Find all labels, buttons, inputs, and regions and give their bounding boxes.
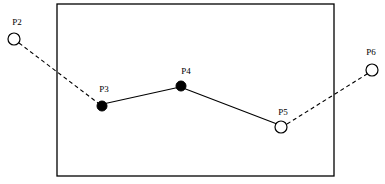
diagram-canvas: P2 P3 P4 P5 P6: [0, 0, 385, 184]
node-p2[interactable]: [8, 33, 20, 45]
edge-p4-p5: [183, 88, 277, 124]
node-label-p6: P6: [366, 47, 376, 57]
node-label-p4: P4: [181, 66, 191, 76]
node-p4[interactable]: [176, 81, 186, 91]
node-label-p2: P2: [12, 17, 22, 27]
edge-p3-p4: [103, 87, 180, 104]
edge-p2-p3: [19, 43, 98, 103]
node-label-p3: P3: [99, 84, 109, 94]
diagram-svg: P2 P3 P4 P5 P6: [0, 0, 385, 184]
node-p6[interactable]: [366, 64, 378, 76]
edge-p5-p6: [287, 74, 367, 124]
node-p3[interactable]: [97, 101, 107, 111]
node-label-p5: P5: [278, 107, 288, 117]
node-p5[interactable]: [275, 121, 287, 133]
